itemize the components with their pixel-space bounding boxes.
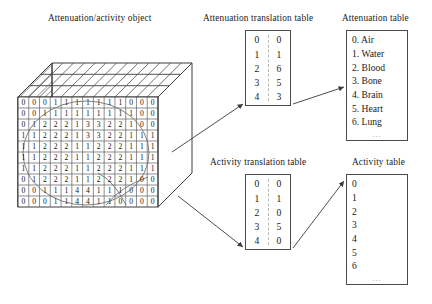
grid-cell: 0 [21, 120, 25, 129]
grid-cell: 2 [118, 120, 122, 129]
grid-cell: 2 [97, 175, 101, 184]
grid-cell: 0 [140, 109, 144, 118]
grid-cell: 2 [108, 175, 112, 184]
attenuation-translation-title: Attenuation translation table [203, 13, 313, 23]
grid-cell: 3 [97, 120, 101, 129]
grid-cell: 1 [86, 164, 90, 173]
grid-cell: 0 [151, 186, 155, 195]
grid-cell: 0 [43, 98, 47, 107]
table-row: 35 [246, 220, 290, 234]
grid-cell: 0 [32, 98, 36, 107]
grid-cell: 1 [86, 175, 90, 184]
grid-cell: 2 [118, 164, 122, 173]
grid-cell: 2 [108, 164, 112, 173]
grid-cell: 1 [129, 153, 133, 162]
grid-cell: 1 [86, 109, 90, 118]
grid-cell: 3 [86, 120, 90, 129]
grid-cell: 0 [21, 186, 25, 195]
translation-value: 1 [268, 50, 290, 60]
grid-cell: 1 [118, 186, 122, 195]
grid-cell: 0 [151, 120, 155, 129]
grid-cell: 1 [21, 164, 25, 173]
list-item: 6 [347, 259, 407, 273]
grid-cell: 1 [54, 98, 58, 107]
grid-cell: 1 [129, 109, 133, 118]
translation-index: 2 [246, 208, 268, 218]
translation-value: 3 [268, 92, 290, 102]
grid-cell: 1 [65, 109, 69, 118]
list-item-label: 0. Air [352, 35, 374, 45]
list-item: 1 [347, 191, 407, 205]
grid-cell: 1 [118, 109, 122, 118]
translation-index: 3 [246, 222, 268, 232]
grid-cell: 1 [21, 142, 25, 151]
grid-cell: 1 [97, 186, 101, 195]
grid-cell: 1 [86, 98, 90, 107]
grid-cell: 0 [140, 120, 144, 129]
grid-cell: 2 [118, 142, 122, 151]
list-item: 2. Blood [347, 60, 407, 74]
translation-index: 2 [246, 64, 268, 74]
grid-cell: 0 [140, 197, 144, 206]
table-row: 40 [246, 234, 290, 248]
table-row: 11 [246, 47, 290, 61]
grid-cell: 1 [43, 109, 47, 118]
grid-cell: 1 [54, 109, 58, 118]
grid-cell: 1 [75, 142, 79, 151]
grid-cell: 2 [43, 120, 47, 129]
grid-cell: 2 [108, 153, 112, 162]
grid-cell: 2 [65, 131, 69, 140]
grid-cell: 1 [129, 142, 133, 151]
grid-cell: 0 [32, 197, 36, 206]
grid-cell: 1 [54, 197, 58, 206]
grid-cell: 1 [108, 197, 112, 206]
translation-index: 4 [246, 236, 268, 246]
translation-index: 1 [246, 194, 268, 204]
list-item: 0. Air [347, 33, 407, 47]
translation-index: 1 [246, 50, 268, 60]
grid-cell: 2 [65, 142, 69, 151]
grid-cell: 1 [108, 186, 112, 195]
grid-cell: 1 [151, 153, 155, 162]
activity-table[interactable]: 0123456... [346, 174, 408, 285]
list-item: 1. Water [347, 47, 407, 61]
list-item-label: 5. Heart [352, 104, 383, 114]
grid-cell: 2 [108, 142, 112, 151]
grid-cell: 0 [129, 186, 133, 195]
list-item-label: 4. Brain [352, 90, 383, 100]
grid-cell: 2 [54, 164, 58, 173]
grid-cell: 1 [129, 175, 133, 184]
list-item: 3 [347, 218, 407, 232]
grid-cell: 1 [75, 98, 79, 107]
object-cube-svg: 0001111111000001111111110001222133221001… [10, 55, 200, 215]
list-item: 4 [347, 232, 407, 246]
translation-value: 5 [268, 78, 290, 88]
attenuation-table[interactable]: 0. Air1. Water2. Blood3. Bone4. Brain5. … [346, 30, 408, 141]
list-item: 3. Bone [347, 74, 407, 88]
grid-cell: 2 [118, 131, 122, 140]
translation-index: 0 [246, 35, 268, 45]
list-item-label: 4 [352, 234, 357, 244]
grid-cell: 1 [75, 164, 79, 173]
grid-cell: 3 [97, 131, 101, 140]
grid-cell: 0 [32, 186, 36, 195]
translation-index: 0 [246, 179, 268, 189]
activity-translation-table[interactable]: 0011203540 [245, 174, 291, 250]
grid-cell: 1 [65, 197, 69, 206]
grid-cell: 0 [21, 98, 25, 107]
grid-cell: 2 [97, 153, 101, 162]
grid-cell: 2 [65, 120, 69, 129]
attenuation-translation-table[interactable]: 0011263543 [245, 30, 291, 106]
grid-cell: 1 [75, 109, 79, 118]
grid-cell: 0 [140, 186, 144, 195]
grid-cell: 1 [140, 142, 144, 151]
grid-cell: 0 [151, 109, 155, 118]
attenuation-activity-object: 0001111111000001111111110001222133221001… [10, 55, 200, 215]
list-more-indicator: ... [347, 273, 407, 283]
grid-cell: 0 [151, 197, 155, 206]
list-item: 0 [347, 177, 407, 191]
grid-cell: 0 [43, 197, 47, 206]
grid-cell: 0 [129, 98, 133, 107]
table-row: 11 [246, 191, 290, 205]
grid-cell: 1 [151, 142, 155, 151]
